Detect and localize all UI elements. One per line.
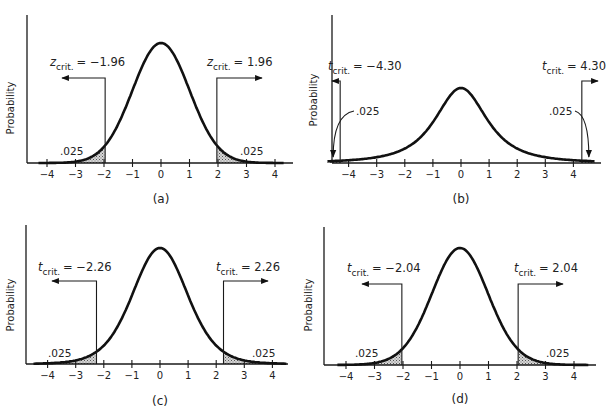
x-tick-label: 2	[215, 169, 221, 180]
x-tick-label: −4	[339, 371, 354, 382]
right-tail-label: .025	[546, 347, 569, 359]
left-critical-label: tcrit.= −2.04	[347, 261, 421, 278]
right-critical-label: tcrit.= 2.04	[514, 261, 578, 278]
panel-label: (b)	[453, 192, 470, 206]
x-tick-label: −4	[341, 169, 356, 180]
x-tick-label: 4	[571, 371, 577, 382]
right-critical-label: tcrit.= 2.26	[216, 260, 280, 277]
left-tail-pointer	[333, 111, 354, 157]
x-tick-label: 3	[542, 371, 548, 382]
x-tick-label: 3	[241, 370, 247, 381]
chart-panel-c: −4−3−2−101234tcrit.= −2.26tcrit.= 2.26.0…	[5, 225, 288, 408]
figure-canvas: −4−3−2−101234zcrit.= −1.96zcrit.= 1.96.0…	[0, 0, 612, 413]
x-tick-label: −4	[40, 169, 55, 180]
panel-label: (a)	[153, 192, 170, 206]
x-tick-label: 2	[213, 370, 219, 381]
density-curve	[328, 88, 595, 161]
y-axis-label: Probability	[303, 278, 314, 331]
left-tail-label: .025	[48, 347, 71, 359]
x-tick-label: −2	[396, 371, 411, 382]
x-tick-label: 1	[185, 370, 191, 381]
left-critical-label: tcrit.= −2.26	[38, 260, 112, 277]
x-tick-label: −2	[97, 169, 112, 180]
x-tick-label: −3	[68, 169, 83, 180]
x-tick-label: 1	[186, 169, 192, 180]
x-tick-label: −3	[68, 370, 83, 381]
x-tick-label: 1	[486, 169, 492, 180]
x-tick-label: −1	[125, 370, 140, 381]
x-tick-label: −1	[125, 169, 140, 180]
x-tick-label: 4	[570, 169, 576, 180]
x-tick-label: 2	[514, 371, 520, 382]
chart-panel-b: −4−3−2−101234tcrit.= −4.30tcrit.= 4.30.0…	[308, 15, 606, 206]
x-tick-label: 0	[457, 371, 463, 382]
panel-label: (c)	[152, 394, 168, 408]
x-tick-label: −2	[397, 169, 412, 180]
left-critical-label: tcrit.= −4.30	[328, 59, 402, 76]
chart-panel-a: −4−3−2−101234zcrit.= −1.96zcrit.= 1.96.0…	[5, 15, 293, 206]
right-tail-label: .025	[549, 105, 572, 117]
x-tick-label: 3	[243, 169, 249, 180]
x-tick-label: 2	[514, 169, 520, 180]
panel-label: (d)	[452, 392, 469, 406]
right-tail-label: .025	[240, 145, 263, 157]
left-tail-label: .025	[355, 347, 378, 359]
x-tick-label: 0	[458, 169, 464, 180]
x-tick-label: 0	[157, 370, 163, 381]
x-tick-label: −2	[96, 370, 111, 381]
x-tick-label: 3	[542, 169, 548, 180]
x-tick-label: −3	[369, 169, 384, 180]
right-tail-label: .025	[252, 347, 275, 359]
x-tick-label: −1	[424, 371, 439, 382]
x-tick-label: −3	[367, 371, 382, 382]
y-axis-label: Probability	[308, 73, 319, 126]
left-tail-label: .025	[60, 145, 83, 157]
left-critical-label: zcrit.= −1.96	[49, 55, 125, 72]
right-critical-label: tcrit.= 4.30	[542, 59, 606, 76]
y-axis-label: Probability	[5, 278, 16, 331]
x-tick-label: 0	[158, 169, 164, 180]
x-tick-label: −1	[426, 169, 441, 180]
x-tick-label: −4	[40, 370, 55, 381]
x-tick-label: 4	[272, 169, 278, 180]
y-axis-label: Probability	[5, 81, 16, 134]
chart-panel-d: −4−3−2−101234tcrit.= −2.04tcrit.= 2.04.0…	[303, 227, 596, 406]
right-critical-label: zcrit.= 1.96	[206, 55, 273, 72]
left-tail-label: .025	[356, 105, 379, 117]
x-tick-label: 4	[269, 370, 275, 381]
x-tick-label: 1	[485, 371, 491, 382]
